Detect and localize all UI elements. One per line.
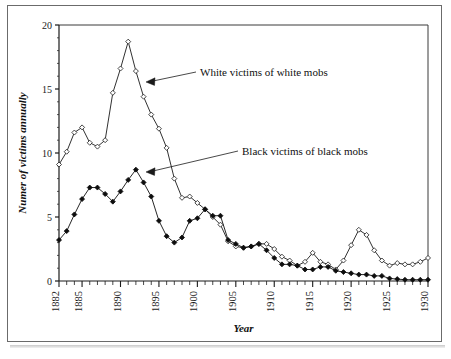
data-point-marker xyxy=(295,263,300,268)
data-point-marker xyxy=(87,140,92,145)
data-point-marker xyxy=(410,262,415,267)
data-point-marker xyxy=(133,69,138,74)
annotation-leader-line xyxy=(153,72,196,81)
data-point-marker xyxy=(426,255,431,260)
x-tick-label: 1925 xyxy=(381,291,392,312)
data-point-marker xyxy=(303,267,308,272)
data-point-marker xyxy=(349,243,354,248)
data-point-marker xyxy=(141,180,146,185)
data-point-marker xyxy=(341,270,346,275)
data-point-marker xyxy=(187,218,192,223)
data-point-marker xyxy=(156,126,161,131)
data-point-marker xyxy=(87,185,92,190)
data-point-marker xyxy=(118,66,123,71)
data-point-marker xyxy=(249,244,254,249)
data-point-marker xyxy=(180,195,185,200)
y-tick-label: 15 xyxy=(42,84,52,95)
x-tick-label: 1882 xyxy=(50,291,61,312)
data-point-marker xyxy=(126,39,131,44)
data-point-marker xyxy=(72,130,77,135)
data-point-marker xyxy=(310,267,315,272)
annotation-black-series: Black victims of black mobs xyxy=(146,145,368,175)
data-point-marker xyxy=(364,232,369,237)
annotation-label: White victims of white mobs xyxy=(200,66,328,78)
x-tick-label: 1910 xyxy=(265,291,276,312)
data-point-marker xyxy=(387,276,392,281)
data-point-marker xyxy=(402,262,407,267)
x-tick-label: 1890 xyxy=(112,291,123,312)
data-point-marker xyxy=(387,263,392,268)
annotation-label: Black victims of black mobs xyxy=(242,145,368,157)
x-axis-title: Year xyxy=(233,322,254,334)
data-point-marker xyxy=(418,259,423,264)
y-tick-label: 5 xyxy=(47,212,52,223)
data-point-marker xyxy=(141,94,146,99)
x-tick-label: 1930 xyxy=(419,291,430,312)
data-point-marker xyxy=(218,213,223,218)
x-tick-label: 1895 xyxy=(150,291,161,312)
annotation-leader-line xyxy=(153,151,238,171)
line-chart: 0510152018821885189018951900190519101915… xyxy=(0,0,451,359)
figure-root: 0510152018821885189018951900190519101915… xyxy=(0,0,451,359)
data-point-marker xyxy=(156,218,161,223)
data-point-marker xyxy=(356,227,361,232)
data-point-marker xyxy=(172,176,177,181)
x-tick-label: 1885 xyxy=(73,291,84,312)
data-point-marker xyxy=(264,241,269,246)
data-point-marker xyxy=(72,212,77,217)
x-tick-label: 1920 xyxy=(342,291,353,312)
y-tick-label: 10 xyxy=(42,148,52,159)
data-point-marker xyxy=(318,264,323,269)
data-point-marker xyxy=(241,245,246,250)
annotation-white-series: White victims of white mobs xyxy=(146,66,328,85)
y-axis-title: Numer of victims annually xyxy=(16,92,28,214)
data-point-marker xyxy=(149,112,154,117)
data-point-marker xyxy=(80,125,85,130)
axes-layer: 0510152018821885189018951900190519101915… xyxy=(42,20,430,313)
x-tick-label: 1905 xyxy=(227,291,238,312)
y-tick-label: 0 xyxy=(47,276,52,287)
data-point-marker xyxy=(80,197,85,202)
data-point-marker xyxy=(57,162,62,167)
data-point-marker xyxy=(372,273,377,278)
data-point-marker xyxy=(349,271,354,276)
x-tick-label: 1915 xyxy=(304,291,315,312)
series-black-victims xyxy=(57,167,431,282)
data-point-marker xyxy=(164,145,169,150)
data-point-marker xyxy=(287,262,292,267)
data-point-marker xyxy=(64,149,69,154)
data-point-marker xyxy=(364,272,369,277)
annotations-layer: White victims of white mobsBlack victims… xyxy=(146,66,368,175)
data-point-marker xyxy=(110,90,115,95)
data-point-marker xyxy=(356,272,361,277)
annotation-arrowhead xyxy=(146,168,155,176)
data-point-marker xyxy=(379,273,384,278)
y-tick-label: 20 xyxy=(42,20,52,31)
series-line xyxy=(59,170,428,280)
x-tick-label: 1900 xyxy=(188,291,199,312)
annotation-arrowhead xyxy=(146,78,155,86)
data-point-marker xyxy=(149,194,154,199)
data-point-marker xyxy=(395,261,400,266)
data-point-marker xyxy=(180,235,185,240)
